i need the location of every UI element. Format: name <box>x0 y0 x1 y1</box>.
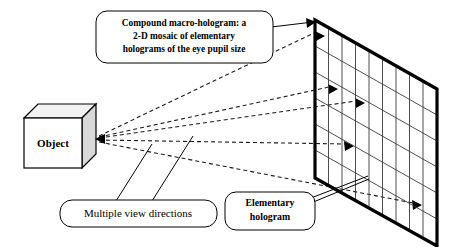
elementary-hologram-callout[interactable]: Elementary hologram <box>225 176 369 230</box>
elementary-hologram-leader-b <box>311 179 369 203</box>
svg-text:Compound macro-hologram: a: Compound macro-hologram: a <box>122 18 247 28</box>
ray-2 <box>99 87 329 137</box>
object-cube[interactable]: Object <box>24 104 96 168</box>
ray-arrow-2 <box>328 84 338 94</box>
ray-arrowheads <box>315 31 422 210</box>
svg-text:holograms of the eye pupil siz: holograms of the eye pupil size <box>123 44 246 54</box>
view-directions-leader-left <box>116 144 152 201</box>
hologram-diagram: Object Compound macro-hologram: a 2-D mo… <box>0 0 456 247</box>
diagram-canvas: Object Compound macro-hologram: a 2-D mo… <box>0 0 456 247</box>
ray-4 <box>99 140 345 144</box>
svg-text:Multiple view directions: Multiple view directions <box>84 207 192 219</box>
ray-arrow-5 <box>412 200 422 210</box>
ray-3 <box>99 101 356 138</box>
grid-row <box>315 98 437 167</box>
ray-arrow-4 <box>344 141 354 151</box>
compound-macro-hologram-plane[interactable] <box>315 20 437 246</box>
grid-row <box>315 46 437 115</box>
compound-macro-hologram-callout[interactable]: Compound macro-hologram: a 2-D mosaic of… <box>96 11 316 63</box>
svg-text:hologram: hologram <box>250 211 290 222</box>
object-label: Object <box>37 137 69 149</box>
plane-grid-rows <box>315 46 437 219</box>
grid-row <box>315 72 437 141</box>
view-directions-leader-right <box>152 136 193 201</box>
grid-row <box>315 150 437 219</box>
svg-text:2-D mosaic of elementary: 2-D mosaic of elementary <box>133 31 235 41</box>
grid-row <box>315 124 437 193</box>
svg-text:Elementary: Elementary <box>246 197 295 208</box>
